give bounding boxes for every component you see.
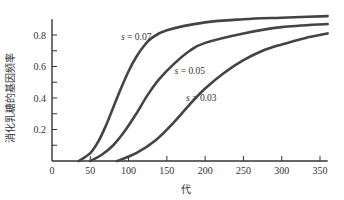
x-tick-label: 200	[198, 165, 213, 176]
curves	[79, 16, 328, 161]
curve-007	[79, 16, 328, 161]
x-tick-label: 350	[313, 165, 328, 176]
y-tick-label: 0.6	[34, 61, 47, 72]
chart: 0501001502002503003500.20.40.60.8 s = 0.…	[0, 0, 344, 200]
y-tick-label: 0.2	[34, 124, 47, 135]
series-annotation: s = 0.03	[186, 93, 217, 103]
y-axis-label: 消化乳糖的基因频率	[4, 53, 16, 143]
x-tick-label: 100	[121, 165, 136, 176]
ticks: 0501001502002503003500.20.40.60.8	[34, 30, 328, 177]
curve-003	[117, 33, 328, 161]
series-annotation: s = 0.07	[121, 32, 152, 42]
axes	[52, 19, 328, 161]
y-tick-label: 0.8	[34, 30, 47, 41]
series-annotation: s = 0.05	[175, 66, 206, 76]
x-tick-label: 0	[50, 165, 55, 176]
x-tick-label: 250	[236, 165, 251, 176]
x-tick-label: 300	[274, 165, 289, 176]
y-tick-label: 0.4	[34, 93, 47, 104]
x-tick-label: 150	[159, 165, 174, 176]
x-tick-label: 50	[85, 165, 95, 176]
x-axis-label: 代	[181, 184, 191, 195]
